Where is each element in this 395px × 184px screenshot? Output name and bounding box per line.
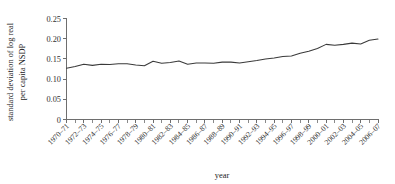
y-tick-label-3: 0.15 [46,55,61,64]
y-axis-title-line-2: per capita NSDP [18,44,27,101]
y-tick-label-2: 0.10 [46,75,61,84]
y-axis-title-line-1: standard deviation of log real [6,22,15,121]
x-axis-title: year [215,171,230,180]
y-axis-title: standard deviation of log real per capit… [6,22,27,121]
y-tick-label-5: 0.25 [46,15,61,24]
data-series-line [67,39,379,68]
y-tick-label-1: 0.05 [46,95,61,104]
x-axis [67,120,380,123]
y-tick-labels: 0 0.05 0.10 0.15 0.20 0.25 [46,15,61,125]
x-tick-labels: 1970–711972–731974–751976–771978–791980–… [46,121,383,146]
y-axis [63,19,67,120]
y-tick-label-0: 0 [57,116,61,125]
line-chart-svg: standard deviation of log real per capit… [0,0,395,184]
y-tick-label-4: 0.20 [46,35,61,44]
chart-figure: standard deviation of log real per capit… [0,0,395,184]
